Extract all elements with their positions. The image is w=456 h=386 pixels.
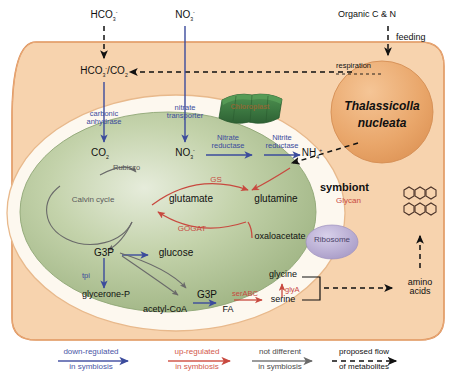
pathway-vector-layer bbox=[0, 0, 456, 386]
label-feeding: feeding bbox=[396, 33, 426, 42]
label-oxaloacetate: oxaloacetate bbox=[254, 232, 305, 241]
label-nitrate-internal: NO3- bbox=[175, 148, 195, 161]
label-nitrite-reductase: Nitrite reductase bbox=[266, 134, 299, 150]
label-gs: GS bbox=[210, 176, 222, 184]
label-rubisco: Rubisco bbox=[113, 164, 140, 172]
figure-canvas: HCO3- NO3- Organic C & N feeding respira… bbox=[0, 0, 456, 386]
label-gogat: GOGAT bbox=[178, 225, 206, 233]
label-organic-c-n: Organic C & N bbox=[338, 10, 396, 19]
label-tpi: tpi bbox=[82, 272, 90, 280]
label-nitrate-transporter: nitrate transporter bbox=[167, 104, 203, 120]
label-glycan: Glycan bbox=[336, 197, 361, 205]
label-ribosome: Ribosome bbox=[314, 236, 350, 244]
label-carbonic-anhydrase: carbonic anhydrase bbox=[86, 110, 121, 126]
host-name-line1: Thalassicolla bbox=[344, 100, 419, 113]
label-ammonium: NH4+ bbox=[302, 148, 322, 161]
legend-not-different-sub: in symbiosis bbox=[258, 363, 302, 371]
label-acetyl-coa: acetyl-CoA bbox=[143, 305, 187, 314]
legend-up-regulated-sub: in symbiosis bbox=[175, 363, 219, 371]
label-symbiont: symbiont bbox=[320, 182, 369, 194]
label-respiration: respiration bbox=[336, 62, 371, 70]
label-glucose: glucose bbox=[159, 248, 193, 259]
label-amino-acids: aminoacids bbox=[408, 278, 433, 297]
legend-proposed-flow-sub: of metabolites bbox=[339, 363, 389, 371]
label-fa: FA bbox=[222, 305, 233, 314]
legend-not-different: not different bbox=[259, 348, 301, 356]
label-co2: CO2 bbox=[91, 148, 109, 160]
label-bicarbonate-input: HCO3- bbox=[91, 10, 118, 23]
label-glycine: glycine bbox=[269, 270, 297, 279]
label-calvin-cycle: Calvin cycle bbox=[72, 196, 115, 204]
label-g3p-upper: G3P bbox=[94, 248, 114, 259]
label-nitrate-input: NO3- bbox=[175, 10, 195, 23]
label-glutamate: glutamate bbox=[169, 194, 213, 205]
label-glutamine: glutamine bbox=[254, 194, 297, 205]
label-chloroplast: Chloroplast bbox=[231, 103, 270, 110]
label-g3p-lower: G3P bbox=[197, 290, 217, 301]
legend-down-regulated-sub: in symbiosis bbox=[69, 363, 113, 371]
label-serine: serine bbox=[271, 295, 296, 304]
label-serabc: serABC bbox=[232, 290, 258, 298]
label-nitrate-reductase: Nitrate reductase bbox=[212, 134, 245, 150]
legend-down-regulated: down-regulated bbox=[63, 348, 118, 356]
label-bicarbonate-co2-pool: HCO3-/CO2 bbox=[80, 66, 128, 79]
label-glycerone-p: glycerone-P bbox=[82, 290, 130, 299]
host-name-line2: nucleata bbox=[358, 117, 407, 130]
legend-proposed-flow: proposed flow bbox=[339, 348, 389, 356]
label-glya: glyA bbox=[285, 286, 300, 294]
legend-up-regulated: up-regulated bbox=[175, 348, 220, 356]
